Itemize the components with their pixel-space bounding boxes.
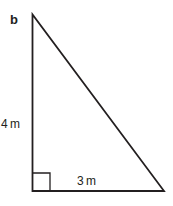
figure-label: b — [10, 13, 18, 26]
right-angle-marker — [33, 173, 51, 191]
horizontal-side-label: 3 m — [77, 175, 96, 187]
vertical-side-label: 4 m — [1, 118, 20, 130]
right-triangle — [33, 15, 165, 192]
